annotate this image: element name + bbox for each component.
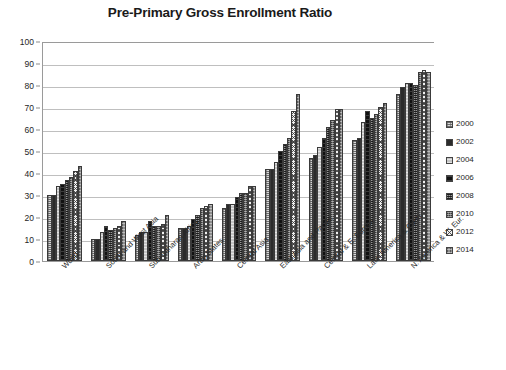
bar-group — [217, 43, 261, 261]
legend-item[interactable]: 2010 — [446, 205, 504, 223]
series-swatch-2010 — [446, 211, 453, 218]
series-swatch-2000 — [446, 121, 453, 128]
y-axis-tick-mark — [36, 64, 40, 65]
x-axis-labels: WorldSouth and West AsiaSub-Saharan Afri… — [42, 264, 434, 368]
y-axis-tick-label: 40 — [25, 169, 34, 179]
bar-group — [43, 43, 87, 261]
y-axis-tick-mark — [36, 240, 40, 241]
bar[interactable] — [296, 94, 300, 261]
y-axis-tick-mark — [36, 42, 40, 43]
y-axis-tick-mark — [36, 86, 40, 87]
y-axis-tick-mark — [36, 108, 40, 109]
bars-layer — [43, 43, 434, 261]
y-axis-tick-label: 90 — [25, 59, 34, 69]
bar-group — [87, 43, 131, 261]
legend-label: 2004 — [456, 156, 474, 164]
legend-label: 2006 — [456, 174, 474, 182]
y-axis-tick-mark — [36, 218, 40, 219]
y-axis-tick-mark — [36, 130, 40, 131]
y-axis-tick-label: 50 — [25, 147, 34, 157]
legend-label: 2012 — [456, 228, 474, 236]
legend-label: 2008 — [456, 192, 474, 200]
y-axis-tick-label: 100 — [20, 37, 34, 47]
chart-container: Pre-Primary Gross Enrollment Ratio 01020… — [0, 0, 506, 370]
legend-label: 2014 — [456, 246, 474, 254]
bar[interactable] — [383, 103, 387, 261]
bar[interactable] — [78, 166, 82, 261]
series-swatch-2014 — [446, 247, 453, 254]
chart-title: Pre-Primary Gross Enrollment Ratio — [0, 5, 440, 20]
series-swatch-2008 — [446, 193, 453, 200]
legend-item[interactable]: 2008 — [446, 187, 504, 205]
legend-item[interactable]: 2002 — [446, 133, 504, 151]
y-axis-tick-label: 80 — [25, 81, 34, 91]
bar[interactable] — [339, 109, 343, 261]
series-swatch-2012 — [446, 229, 453, 236]
legend-item[interactable]: 2014 — [446, 241, 504, 259]
y-axis-tick-mark — [36, 262, 40, 263]
y-axis-tick-mark — [36, 196, 40, 197]
y-axis-tick-label: 70 — [25, 103, 34, 113]
y-axis-tick-mark — [36, 174, 40, 175]
y-axis-tick-label: 60 — [25, 125, 34, 135]
bar-group — [261, 43, 305, 261]
y-axis-tick-label: 0 — [29, 257, 34, 267]
y-axis-tick-mark — [36, 152, 40, 153]
legend-item[interactable]: 2006 — [446, 169, 504, 187]
y-axis-tick-label: 20 — [25, 213, 34, 223]
legend-label: 2010 — [456, 210, 474, 218]
legend-item[interactable]: 2012 — [446, 223, 504, 241]
legend-label: 2000 — [456, 120, 474, 128]
y-axis: 0102030405060708090100 — [0, 42, 38, 262]
series-swatch-2004 — [446, 157, 453, 164]
legend-item[interactable]: 2004 — [446, 151, 504, 169]
legend-label: 2002 — [456, 138, 474, 146]
y-axis-tick-label: 30 — [25, 191, 34, 201]
chart-legend: 20002002200420062008201020122014 — [446, 115, 504, 259]
bar[interactable] — [426, 72, 430, 261]
series-swatch-2006 — [446, 175, 453, 182]
series-swatch-2002 — [446, 139, 453, 146]
legend-item[interactable]: 2000 — [446, 115, 504, 133]
plot-area — [42, 42, 434, 262]
y-axis-tick-label: 10 — [25, 235, 34, 245]
